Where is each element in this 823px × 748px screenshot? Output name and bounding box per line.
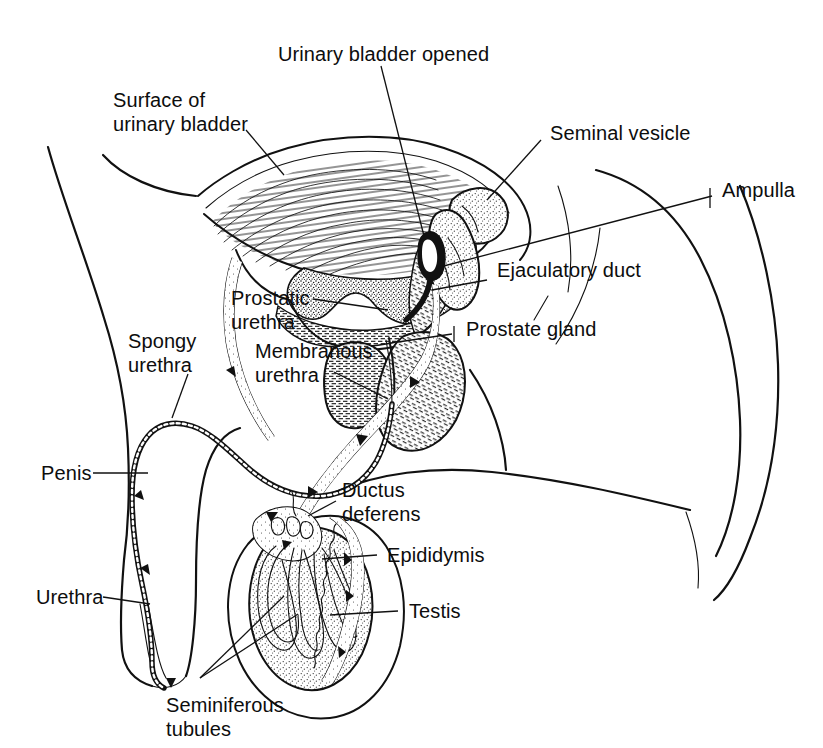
label-seminal-vesicle: Seminal vesicle <box>550 121 690 145</box>
label-surface-of-urinary-bladder-line2: urinary bladder <box>113 112 248 136</box>
label-spongy-urethra-line1: Spongy <box>128 329 196 353</box>
label-prostatic-urethra-line1: Prostatic <box>231 286 310 310</box>
label-membranous-urethra-line1: Membranous <box>255 339 373 363</box>
anatomy-figure: Urinary bladder opened Surface of urinar… <box>0 0 823 748</box>
label-epididymis: Epididymis <box>387 543 485 567</box>
label-ampulla: Ampulla <box>722 178 795 202</box>
leader-spongy-urethra <box>172 374 188 418</box>
label-testis: Testis <box>409 599 461 623</box>
label-ejaculatory-duct: Ejaculatory duct <box>497 258 641 282</box>
label-seminiferous-tubules-line1: Seminiferous <box>166 693 284 717</box>
label-surface-of-urinary-bladder-line1: Surface of <box>113 88 205 112</box>
label-penis: Penis <box>41 461 92 485</box>
leader-surface-urinary-bladder <box>246 130 284 175</box>
label-spongy-urethra-line2: urethra <box>128 353 192 377</box>
label-urinary-bladder-opened: Urinary bladder opened <box>278 42 489 66</box>
label-prostatic-urethra-line2: urethra <box>231 310 295 334</box>
label-seminiferous-tubules-line2: tubules <box>166 717 231 741</box>
label-prostate-gland: Prostate gland <box>466 317 596 341</box>
label-ductus-deferens-line2: deferens <box>342 502 421 526</box>
label-membranous-urethra-line2: urethra <box>255 363 319 387</box>
label-ductus-deferens-line1: Ductus <box>342 478 405 502</box>
label-urethra: Urethra <box>36 585 103 609</box>
